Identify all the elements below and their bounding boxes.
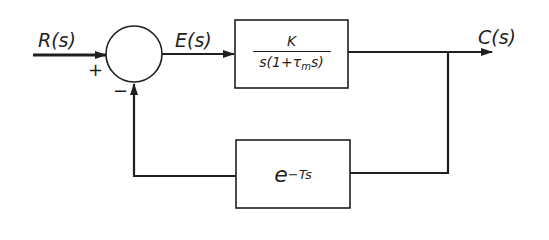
error-signal-label: E(s) bbox=[175, 31, 212, 50]
plus-sign: + bbox=[88, 61, 103, 79]
feedback-return-line bbox=[134, 84, 236, 176]
denominator-prefix: s(1+τ bbox=[259, 54, 301, 70]
output-signal-label: C(s) bbox=[478, 28, 516, 47]
summing-junction bbox=[106, 26, 162, 82]
input-signal-label: R(s) bbox=[38, 31, 76, 50]
time-constant-subscript: m bbox=[301, 61, 311, 72]
minus-sign: − bbox=[113, 82, 128, 100]
transfer-numerator: K bbox=[287, 33, 296, 51]
denominator-suffix: s) bbox=[311, 54, 324, 70]
feedback-transfer-function: e−Ts bbox=[236, 140, 350, 208]
feedback-takeoff-line bbox=[350, 52, 448, 173]
transfer-denominator: s(1+τms) bbox=[259, 52, 323, 75]
forward-transfer-function: K s(1+τms) bbox=[235, 20, 348, 88]
exponential-base: e bbox=[274, 162, 288, 187]
delay-exponent: −Ts bbox=[288, 167, 312, 182]
